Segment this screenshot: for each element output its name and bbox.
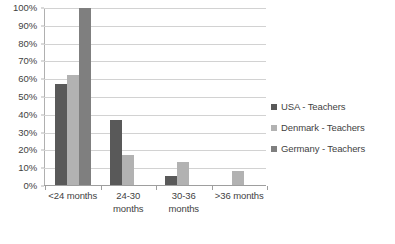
x-tick-label: 30-36 months xyxy=(156,190,212,215)
bar xyxy=(55,84,67,185)
legend-item: USA - Teachers xyxy=(271,99,395,115)
legend-item: Germany - Teachers xyxy=(271,141,395,157)
bar xyxy=(165,176,177,185)
legend-label: Germany - Teachers xyxy=(281,144,365,154)
y-tick-label: 90% xyxy=(18,21,37,31)
bar xyxy=(79,8,91,185)
bar xyxy=(177,162,189,185)
bar xyxy=(110,120,122,185)
legend-swatch-icon xyxy=(271,146,277,152)
y-axis: 0%10%20%30%40%50%60%70%80%90%100% xyxy=(0,8,41,186)
legend-label: Denmark - Teachers xyxy=(281,123,365,133)
x-axis-line xyxy=(44,185,266,186)
x-tick-mark xyxy=(212,186,213,190)
bar-group xyxy=(45,8,100,185)
bar xyxy=(67,75,79,185)
x-tick-label: <24 months xyxy=(45,190,101,215)
y-tick-label: 40% xyxy=(18,110,37,120)
bar xyxy=(232,171,244,185)
legend-item: Denmark - Teachers xyxy=(271,120,395,136)
y-tick-label: 0% xyxy=(23,181,37,191)
legend-swatch-icon xyxy=(271,104,277,110)
y-tick-label: 10% xyxy=(18,163,37,173)
x-axis: <24 months24-30 months30-36 months>36 mo… xyxy=(45,190,267,215)
x-tick-label: >36 months xyxy=(212,190,268,215)
legend-swatch-icon xyxy=(271,125,277,131)
y-tick-label: 20% xyxy=(18,146,37,156)
y-tick-label: 70% xyxy=(18,57,37,67)
y-tick-label: 80% xyxy=(18,39,37,49)
x-tick-mark xyxy=(101,186,102,190)
bar-chart: 0%10%20%30%40%50%60%70%80%90%100% <24 mo… xyxy=(0,0,395,244)
plot-area xyxy=(44,8,266,186)
x-tick-mark xyxy=(267,186,268,190)
y-tick-label: 60% xyxy=(18,74,37,84)
bar-group xyxy=(156,8,211,185)
bar-group xyxy=(100,8,155,185)
bar-group xyxy=(211,8,266,185)
x-tick-mark xyxy=(156,186,157,190)
legend-label: USA - Teachers xyxy=(281,102,345,112)
y-tick-label: 50% xyxy=(18,92,37,102)
chart-legend: USA - TeachersDenmark - TeachersGermany … xyxy=(271,99,395,162)
x-tick-label: 24-30 months xyxy=(101,190,157,215)
bar xyxy=(122,155,134,185)
bars-layer xyxy=(45,8,266,185)
x-tick-mark xyxy=(45,186,46,190)
y-tick-label: 30% xyxy=(18,128,37,138)
y-tick-label: 100% xyxy=(13,3,37,13)
